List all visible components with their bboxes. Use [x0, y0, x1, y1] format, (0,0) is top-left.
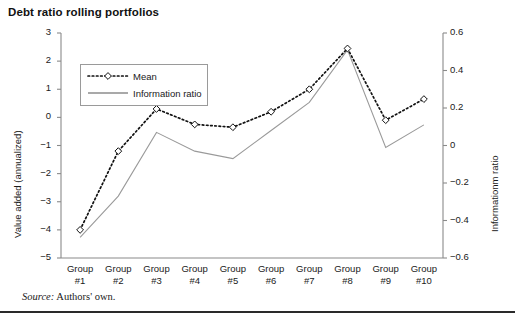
right-tick-label: −0.4: [450, 214, 478, 225]
x-tick-label-line: #8: [328, 275, 366, 287]
left-tick-label: −5: [31, 251, 51, 262]
legend-item-information-ratio: Information ratio: [86, 86, 202, 100]
left-tick-label: 3: [31, 26, 51, 37]
source-prefix: Source:: [22, 291, 54, 302]
x-tick-label: Group#10: [405, 263, 443, 286]
x-tick-label-line: #10: [405, 275, 443, 287]
y-axis-label-left: Value added (annualized): [12, 130, 23, 238]
data-point-marker: [115, 148, 122, 155]
x-tick-label-line: Group: [214, 263, 252, 275]
x-tick-label-line: #6: [252, 275, 290, 287]
x-tick-label-line: Group: [176, 263, 214, 275]
legend-swatch-solid-line: [86, 87, 130, 99]
x-tick-label-line: Group: [137, 263, 175, 275]
legend-label-mean: Mean: [133, 71, 157, 82]
right-tick-label: 0: [450, 139, 478, 150]
data-point-marker: [191, 121, 198, 128]
x-tick-label-line: #1: [61, 275, 99, 287]
x-tick-label: Group#9: [367, 263, 405, 286]
x-tick-label: Group#4: [176, 263, 214, 286]
data-point-marker: [268, 108, 275, 115]
right-tick-label: 0.2: [450, 101, 478, 112]
left-tick-label: −3: [31, 195, 51, 206]
x-tick-label-line: #9: [367, 275, 405, 287]
source-note: Source: Authors' own.: [22, 291, 115, 302]
source-text: Authors' own.: [56, 291, 115, 302]
right-tick-label: 0.4: [450, 64, 478, 75]
left-axis-ticks: [57, 33, 61, 258]
x-tick-label-line: Group: [405, 263, 443, 275]
x-tick-label: Group#2: [99, 263, 137, 286]
chart-legend: Mean Information ratio: [80, 64, 208, 106]
x-tick-label: Group#3: [137, 263, 175, 286]
left-tick-label: −4: [31, 223, 51, 234]
x-tick-label-line: Group: [367, 263, 405, 275]
data-point-marker: [77, 226, 84, 233]
data-point-marker: [382, 117, 389, 124]
x-tick-label-line: #2: [99, 275, 137, 287]
data-point-marker: [153, 106, 160, 113]
x-tick-label: Group#7: [290, 263, 328, 286]
data-point-marker: [230, 124, 237, 131]
plot-area: 3210−1−2−3−4−5 0.60.40.20−0.2−0.4−0.6 Gr…: [0, 0, 515, 319]
left-tick-label: 1: [31, 82, 51, 93]
x-tick-label-line: Group: [252, 263, 290, 275]
x-tick-label: Group#5: [214, 263, 252, 286]
right-tick-label: −0.6: [450, 251, 478, 262]
x-tick-label-line: Group: [290, 263, 328, 275]
x-tick-label: Group#1: [61, 263, 99, 286]
right-axis-ticks: [443, 33, 447, 258]
figure-container: Debt ratio rolling portfolios 3210−1−2−3…: [0, 0, 515, 319]
bottom-rule: [0, 311, 515, 313]
x-tick-label: Group#6: [252, 263, 290, 286]
legend-label-information-ratio: Information ratio: [133, 88, 202, 99]
left-tick-label: 0: [31, 110, 51, 121]
legend-item-mean: Mean: [86, 69, 157, 83]
x-tick-label-line: Group: [61, 263, 99, 275]
left-tick-label: 2: [31, 54, 51, 65]
right-tick-label: 0.6: [450, 26, 478, 37]
legend-swatch-dashed-diamond: [86, 70, 130, 82]
x-tick-label-line: Group: [328, 263, 366, 275]
x-tick-label-line: #3: [137, 275, 175, 287]
x-tick-label-line: #5: [214, 275, 252, 287]
left-tick-label: −1: [31, 139, 51, 150]
x-tick-label-line: Group: [99, 263, 137, 275]
x-tick-label-line: #7: [290, 275, 328, 287]
left-tick-label: −2: [31, 167, 51, 178]
x-tick-label: Group#8: [328, 263, 366, 286]
right-tick-label: −0.2: [450, 176, 478, 187]
x-tick-label-line: #4: [176, 275, 214, 287]
y-axis-label-right: Informationm ratio: [489, 155, 500, 232]
data-point-marker: [421, 96, 428, 103]
